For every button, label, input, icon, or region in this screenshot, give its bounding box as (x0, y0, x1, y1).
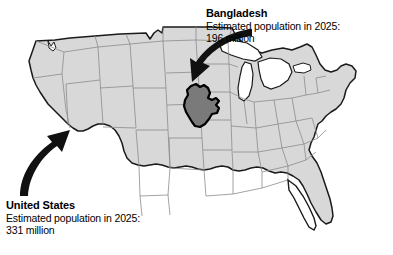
bangladesh-annotation-line2: 196 million (206, 32, 340, 45)
bangladesh-annotation-line1: Estimated population in 2025: (206, 20, 340, 33)
bangladesh-annotation-title: Bangladesh (206, 7, 340, 20)
united-states-annotation-title: United States (6, 199, 140, 212)
united-states-annotation: United States Estimated population in 20… (6, 199, 140, 237)
united-states-annotation-line1: Estimated population in 2025: (6, 212, 140, 225)
bangladesh-annotation: Bangladesh Estimated population in 2025:… (206, 7, 340, 45)
united-states-annotation-line2: 331 million (6, 224, 140, 237)
